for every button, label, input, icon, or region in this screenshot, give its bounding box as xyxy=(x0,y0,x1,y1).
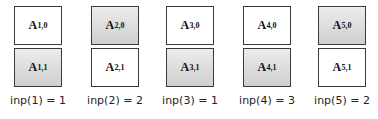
cell-label-base: A xyxy=(28,60,37,75)
cell-label-base: A xyxy=(257,60,266,75)
column-3: A3,0 A3,1 inp(3) = 1 xyxy=(166,0,214,119)
inp-label-4: inp(4) = 3 xyxy=(229,94,305,107)
cell-a-2-1: A2,1 xyxy=(91,48,139,87)
cell-a-5-0: A5,0 xyxy=(318,6,366,45)
cell-label-sub: 3,0 xyxy=(190,21,200,30)
inp-label-3: inp(3) = 1 xyxy=(152,94,228,107)
cell-label-base: A xyxy=(105,18,114,33)
cell-label-sub: 5,0 xyxy=(342,21,352,30)
cell-label-base: A xyxy=(180,18,189,33)
inp-label-5: inp(5) = 2 xyxy=(304,94,378,107)
cell-a-5-1: A5,1 xyxy=(318,48,366,87)
cell-label-sub: 4,0 xyxy=(267,21,277,30)
inp-label-2: inp(2) = 2 xyxy=(77,94,153,107)
cell-label-sub: 3,1 xyxy=(190,63,200,72)
cell-label-base: A xyxy=(332,60,341,75)
cell-label-base: A xyxy=(332,18,341,33)
inp-label-1: inp(1) = 1 xyxy=(0,94,76,107)
cell-label-sub: 4,1 xyxy=(267,63,277,72)
cell-a-3-1: A3,1 xyxy=(166,48,214,87)
cell-a-1-0: A1,0 xyxy=(14,6,62,45)
cell-label-sub: 1,0 xyxy=(38,21,48,30)
cell-label-base: A xyxy=(28,18,37,33)
cell-label-base: A xyxy=(257,18,266,33)
cell-a-1-1: A1,1 xyxy=(14,48,62,87)
cell-label-sub: 2,0 xyxy=(115,21,125,30)
cell-label-base: A xyxy=(105,60,114,75)
cell-label-sub: 2,1 xyxy=(115,63,125,72)
column-5: A5,0 A5,1 inp(5) = 2 xyxy=(318,0,366,119)
cell-label-sub: 5,1 xyxy=(342,63,352,72)
column-2: A2,0 A2,1 inp(2) = 2 xyxy=(91,0,139,119)
column-1: A1,0 A1,1 inp(1) = 1 xyxy=(14,0,62,119)
cell-a-2-0: A2,0 xyxy=(91,6,139,45)
cell-label-sub: 1,1 xyxy=(38,63,48,72)
cell-a-3-0: A3,0 xyxy=(166,6,214,45)
cell-a-4-1: A4,1 xyxy=(243,48,291,87)
cell-a-4-0: A4,0 xyxy=(243,6,291,45)
cell-label-base: A xyxy=(180,60,189,75)
column-4: A4,0 A4,1 inp(4) = 3 xyxy=(243,0,291,119)
